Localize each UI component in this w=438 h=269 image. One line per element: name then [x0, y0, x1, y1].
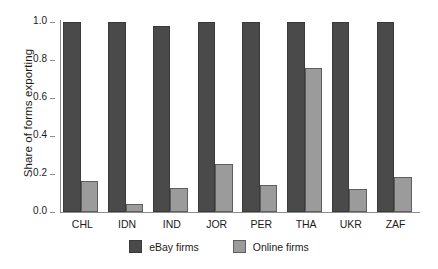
- bar-chl-ebay-firms[interactable]: [63, 22, 81, 212]
- legend-label: Online firms: [253, 241, 309, 253]
- y-axis-tick-label: 1.0: [33, 15, 47, 26]
- bar-group: [63, 22, 98, 212]
- bar-group: [242, 22, 277, 212]
- bar-tha-online-firms[interactable]: [305, 68, 323, 212]
- bar-per-online-firms[interactable]: [260, 185, 278, 212]
- bar-group: [153, 22, 188, 212]
- legend-swatch-icon: [233, 240, 246, 253]
- legend-entry-ebay-firms[interactable]: eBay firms: [129, 240, 199, 253]
- bar-group: [332, 22, 367, 212]
- y-axis-title: Share of forms exporting: [22, 13, 34, 213]
- bar-zaf-online-firms[interactable]: [394, 177, 412, 212]
- bar-ukr-ebay-firms[interactable]: [332, 22, 350, 212]
- bar-group: [377, 22, 412, 212]
- y-axis-tick-label: 0.8: [33, 53, 47, 64]
- bar-ukr-online-firms[interactable]: [349, 189, 367, 212]
- bar-jor-ebay-firms[interactable]: [198, 22, 216, 212]
- y-axis-tick-label: 0.0: [33, 205, 47, 216]
- x-axis-tick-label-jor: JOR: [194, 218, 239, 230]
- x-axis-tick-label-chl: CHL: [60, 218, 105, 230]
- bar-per-ebay-firms[interactable]: [242, 22, 260, 212]
- y-axis-tick-mark: [50, 212, 55, 213]
- y-axis-tick-label: 0.6: [33, 91, 47, 102]
- legend-swatch-icon: [129, 240, 142, 253]
- bar-idn-ebay-firms[interactable]: [108, 22, 126, 212]
- x-axis-tick-label-tha: THA: [284, 218, 329, 230]
- bar-tha-ebay-firms[interactable]: [287, 22, 305, 212]
- y-axis-tick-mark: [50, 136, 55, 137]
- bar-chl-online-firms[interactable]: [81, 181, 99, 212]
- x-axis-tick-label-ind: IND: [150, 218, 195, 230]
- x-axis-tick-label-ukr: UKR: [329, 218, 374, 230]
- bar-zaf-ebay-firms[interactable]: [377, 22, 395, 212]
- x-axis-line: [60, 212, 420, 213]
- y-axis-tick-mark: [50, 60, 55, 61]
- bar-ind-online-firms[interactable]: [170, 188, 188, 212]
- y-axis-tick-label: 0.2: [33, 167, 47, 178]
- bar-jor-online-firms[interactable]: [215, 164, 233, 212]
- bar-ind-ebay-firms[interactable]: [153, 26, 171, 212]
- plot-area: [60, 22, 418, 212]
- legend-entry-online-firms[interactable]: Online firms: [233, 240, 309, 253]
- x-axis-tick-label-zaf: ZAF: [373, 218, 418, 230]
- y-axis-tick-mark: [50, 174, 55, 175]
- bar-group: [108, 22, 143, 212]
- x-axis-tick-label-idn: IDN: [105, 218, 150, 230]
- bar-group: [287, 22, 322, 212]
- y-axis-tick-label: 0.4: [33, 129, 47, 140]
- legend-label: eBay firms: [149, 241, 199, 253]
- x-axis-tick-label-per: PER: [239, 218, 284, 230]
- y-axis-tick-mark: [50, 22, 55, 23]
- chart-legend: eBay firmsOnline firms: [0, 240, 438, 253]
- bar-chart-figure: Share of forms exporting 0.00.20.40.60.8…: [0, 0, 438, 269]
- y-axis-tick-mark: [50, 98, 55, 99]
- bar-group: [198, 22, 233, 212]
- bar-idn-online-firms[interactable]: [126, 204, 144, 212]
